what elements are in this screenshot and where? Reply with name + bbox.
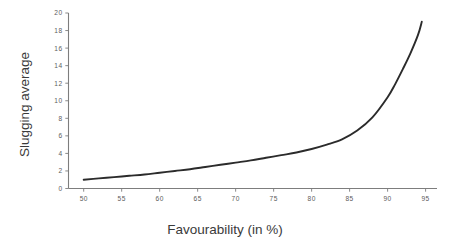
line-chart-plot: 02468101214161820 50556065707580859095 (0, 0, 450, 252)
x-tick-label: 60 (156, 195, 164, 202)
y-tick-label: 20 (54, 9, 62, 16)
x-tick-label: 70 (232, 195, 240, 202)
y-tick-label: 2 (58, 167, 62, 174)
data-series-line (84, 22, 422, 180)
x-tick-label: 75 (270, 195, 278, 202)
y-tick-label: 8 (58, 115, 62, 122)
y-tick-label: 16 (54, 45, 62, 52)
y-tick-label: 18 (54, 27, 62, 34)
chart-container: 02468101214161820 50556065707580859095 F… (0, 0, 450, 252)
y-tick-label: 10 (54, 97, 62, 104)
x-tick-label: 80 (308, 195, 316, 202)
x-axis-ticks: 50556065707580859095 (80, 189, 430, 202)
y-axis-ticks: 02468101214161820 (54, 9, 68, 192)
x-tick-label: 65 (194, 195, 202, 202)
x-tick-label: 90 (384, 195, 392, 202)
y-tick-label: 6 (58, 132, 62, 139)
y-tick-label: 4 (58, 150, 62, 157)
y-axis-title: Slugging average (17, 35, 32, 175)
y-tick-label: 0 (58, 185, 62, 192)
x-axis-title: Favourability (in %) (0, 222, 450, 237)
y-tick-label: 14 (54, 62, 62, 69)
x-tick-label: 55 (118, 195, 126, 202)
y-tick-label: 12 (54, 80, 62, 87)
x-tick-label: 50 (80, 195, 88, 202)
x-tick-label: 95 (422, 195, 430, 202)
x-tick-label: 85 (346, 195, 354, 202)
